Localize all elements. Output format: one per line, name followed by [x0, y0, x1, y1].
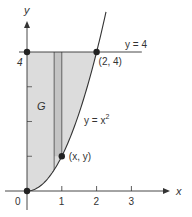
x-axis-label: x — [175, 185, 182, 197]
x-tick-label: 3 — [128, 196, 134, 207]
y-axis-label: y — [23, 4, 31, 16]
vertical-strip — [54, 52, 62, 156]
curve-label-main: y = x — [84, 115, 105, 126]
point-2-4-dot — [93, 49, 99, 55]
point-2-4-label: (2, 4) — [99, 56, 122, 67]
region-diagram: x y 0123 4 y = 4 y = x2 G (2, 4)(x, y) — [0, 0, 192, 217]
point-x-y-label: (x, y) — [69, 151, 91, 162]
line-label: y = 4 — [125, 39, 147, 50]
origin-dot — [24, 188, 30, 194]
curve-label-exponent: 2 — [105, 113, 109, 120]
point-x-y-dot — [59, 153, 65, 159]
region-label: G — [37, 100, 46, 112]
point-0-4-dot — [24, 49, 30, 55]
x-tick-label: 2 — [94, 196, 100, 207]
curve-label: y = x2 — [84, 113, 109, 126]
y-axis-arrowhead — [24, 21, 30, 28]
x-axis-arrowhead — [163, 188, 170, 194]
x-tick-label: 1 — [59, 196, 65, 207]
y-tick-label: 4 — [17, 57, 23, 68]
x-tick-label: 0 — [15, 196, 21, 207]
